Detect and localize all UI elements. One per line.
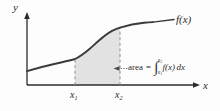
equals-sign: =	[145, 62, 152, 72]
integrand-label: f(x)	[163, 62, 176, 72]
y-axis-label: y	[13, 2, 18, 13]
lower-sub: 1	[160, 72, 162, 76]
area-under-curve-figure: y x f(x) x1 x2 area = ∫ x2 x1 f(x) dx	[0, 0, 220, 111]
differential-label: dx	[175, 62, 185, 72]
y-axis-arrowhead	[24, 12, 30, 19]
x2-tick-label: x2	[115, 90, 123, 101]
area-word-label: area	[128, 62, 143, 72]
integral-expression: ∫ x2 x1 f(x) dx	[154, 61, 185, 73]
x2-subscript: 2	[119, 94, 122, 101]
function-label-fx: f(x)	[176, 14, 191, 25]
area-annotation: area = ∫ x2 x1 f(x) dx	[128, 61, 185, 73]
x1-subscript: 1	[74, 94, 77, 101]
x-axis-label: x	[203, 80, 208, 91]
fx-label-leader	[153, 20, 174, 23]
integral-limits: x2 x1	[158, 61, 162, 73]
integral-lower-limit: x1	[158, 70, 162, 76]
upper-sub: 2	[160, 60, 162, 64]
integral-upper-limit: x2	[158, 58, 162, 64]
x-axis-arrowhead	[193, 82, 200, 88]
x1-tick-label: x1	[70, 90, 78, 101]
shaded-area-region	[75, 28, 120, 85]
